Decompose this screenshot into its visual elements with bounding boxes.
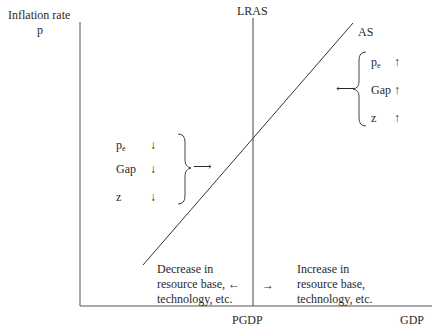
- down-arrow-icon: ↓: [150, 162, 156, 176]
- down-arrow-icon: ↓: [150, 138, 156, 152]
- down-arrow-icon: ↓: [150, 190, 156, 204]
- right-brace: [353, 52, 366, 126]
- increase-note: Increase in resource base, technology, e…: [297, 262, 373, 307]
- right-pointer-arrow-icon: ⟶: [193, 160, 212, 174]
- left-row-gap-label: Gap: [116, 162, 136, 176]
- decrease-note-line3: technology, etc.: [157, 292, 240, 307]
- increase-note-line1: Increase in: [297, 262, 373, 277]
- left-pointer-arrow-icon: ⟵: [336, 82, 355, 96]
- decrease-note-line2: resource base, ←: [157, 277, 240, 292]
- y-axis-symbol: p: [37, 23, 43, 37]
- up-arrow-icon: ↑: [394, 83, 400, 97]
- increase-note-line3: technology, etc.: [297, 292, 373, 307]
- as-label: AS: [358, 25, 373, 39]
- right-row-z-label: z: [371, 111, 376, 125]
- x-axis-label: GDP: [400, 313, 424, 327]
- right-row-pe: pe: [371, 55, 381, 73]
- left-arrow-icon: ←: [228, 277, 240, 291]
- increase-note-line2: resource base,: [297, 277, 373, 292]
- up-arrow-icon: ↑: [394, 55, 400, 69]
- up-arrow-icon: ↑: [394, 111, 400, 125]
- lras-label: LRAS: [237, 4, 268, 18]
- as-line: [143, 23, 353, 265]
- right-row-pe-sub: e: [377, 61, 381, 70]
- right-row-gap-label: Gap: [371, 83, 391, 97]
- decrease-note: Decrease in resource base, ← technology,…: [157, 262, 240, 307]
- decrease-note-line2-text: resource base,: [157, 277, 225, 291]
- pgdp-tick-label: PGDP: [232, 313, 263, 327]
- left-row-pe-sub: e: [122, 144, 126, 153]
- y-axis-label: Inflation rate: [8, 8, 70, 22]
- decrease-note-line1: Decrease in: [157, 262, 240, 277]
- left-row-z-label: z: [116, 190, 121, 204]
- right-arrow-icon: →: [262, 278, 274, 292]
- left-brace: [178, 134, 191, 204]
- left-row-pe: pe: [116, 138, 126, 156]
